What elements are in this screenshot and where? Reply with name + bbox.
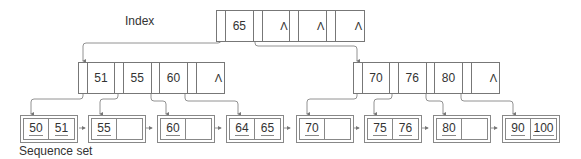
internal-pointer xyxy=(427,63,436,93)
root-pointer-2 xyxy=(290,11,299,41)
internal-key: Λ xyxy=(197,63,224,93)
null-pointer-marker: Λ xyxy=(490,72,497,84)
leaf-node: 60 xyxy=(157,115,215,143)
internal-pointer xyxy=(152,63,161,93)
null-pointer-marker: Λ xyxy=(317,20,324,32)
internal-pointer xyxy=(390,63,399,93)
internal-key: 55 xyxy=(124,63,151,93)
leaf-key: 75 xyxy=(368,119,393,139)
root-key-2: Λ xyxy=(299,11,327,41)
leaf-node: 70 xyxy=(296,115,354,143)
internal-node-right: 70 76 80 Λ xyxy=(353,62,500,94)
internal-pointer xyxy=(79,63,88,93)
internal-key: Λ xyxy=(472,63,499,93)
index-label: Index xyxy=(125,14,154,28)
bplus-tree-diagram: Index Sequence set 65 Λ Λ Λ 51 55 60 Λ 7… xyxy=(0,0,581,159)
root-key-0: 65 xyxy=(226,11,254,41)
null-pointer-marker: Λ xyxy=(280,20,287,32)
root-pointer-1 xyxy=(254,11,263,41)
internal-key: 80 xyxy=(435,63,462,93)
leaf-key: 64 xyxy=(230,119,255,139)
leaf-node: 90 100 xyxy=(502,115,560,143)
leaf-key: 76 xyxy=(393,119,418,139)
internal-node-left: 51 55 60 Λ xyxy=(78,62,225,94)
leaf-key: 60 xyxy=(161,119,186,139)
null-pointer-marker: Λ xyxy=(215,72,222,84)
leaf-node: 75 76 xyxy=(364,115,422,143)
internal-key: 51 xyxy=(88,63,115,93)
root-index-node: 65 Λ Λ Λ xyxy=(216,10,365,42)
leaf-node: 55 xyxy=(88,115,146,143)
leaf-node: 80 xyxy=(433,115,491,143)
leaf-key-empty xyxy=(186,119,211,139)
leaf-key: 55 xyxy=(92,119,117,139)
leaf-key-empty xyxy=(325,119,350,139)
leaf-key: 70 xyxy=(300,119,325,139)
sequence-set-label: Sequence set xyxy=(19,144,92,158)
internal-pointer xyxy=(115,63,124,93)
internal-pointer xyxy=(463,63,472,93)
leaf-key: 65 xyxy=(255,119,280,139)
null-pointer-marker: Λ xyxy=(355,20,362,32)
internal-key: 76 xyxy=(399,63,426,93)
internal-key: 60 xyxy=(160,63,187,93)
root-pointer-3 xyxy=(327,11,336,41)
root-key-1: Λ xyxy=(263,11,291,41)
leaf-node: 64 65 xyxy=(226,115,284,143)
leaf-key: 100 xyxy=(531,119,556,139)
leaf-key-empty xyxy=(462,119,487,139)
internal-pointer xyxy=(354,63,363,93)
leaf-key: 90 xyxy=(506,119,531,139)
leaf-node: 50 51 xyxy=(20,115,78,143)
root-key-3: Λ xyxy=(336,11,364,41)
leaf-key: 51 xyxy=(49,119,74,139)
leaf-key: 50 xyxy=(24,119,49,139)
root-pointer-0 xyxy=(217,11,226,41)
internal-key: 70 xyxy=(363,63,390,93)
internal-pointer xyxy=(188,63,197,93)
leaf-key: 80 xyxy=(437,119,462,139)
leaf-key-empty xyxy=(117,119,142,139)
